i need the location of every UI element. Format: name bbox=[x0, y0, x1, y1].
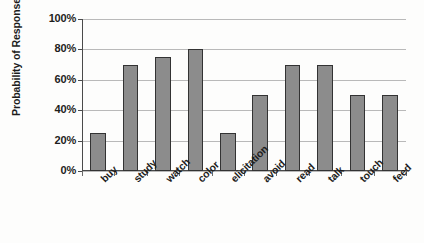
bar-slot bbox=[147, 19, 179, 171]
y-tick-label: 80% bbox=[32, 42, 76, 54]
bar-chart: Probability of Response 100%80%60%40%20%… bbox=[0, 0, 424, 243]
bar-slot bbox=[374, 19, 406, 171]
bar[interactable] bbox=[285, 65, 301, 171]
bar-slot bbox=[179, 19, 211, 171]
bar-slot bbox=[212, 19, 244, 171]
bar[interactable] bbox=[350, 95, 366, 171]
bar-slot bbox=[114, 19, 146, 171]
bar[interactable] bbox=[90, 133, 106, 171]
bar[interactable] bbox=[155, 57, 171, 171]
y-axis-title: Probability of Response bbox=[10, 0, 26, 137]
bar-slot bbox=[309, 19, 341, 171]
x-axis-category-labels: buystudywatchcolorelicitationavoidreadta… bbox=[82, 176, 406, 240]
y-tick-label: 100% bbox=[32, 12, 76, 24]
y-tick-label: 60% bbox=[32, 73, 76, 85]
y-tick-label: 0% bbox=[32, 164, 76, 176]
bar[interactable] bbox=[317, 65, 333, 171]
bar-slot bbox=[82, 19, 114, 171]
y-tick-label: 20% bbox=[32, 134, 76, 146]
bar-slot bbox=[341, 19, 373, 171]
y-tick-label: 40% bbox=[32, 103, 76, 115]
y-axis-tick-labels: 100%80%60%40%20%0% bbox=[30, 0, 76, 243]
bar-slot bbox=[276, 19, 308, 171]
plot-area bbox=[82, 19, 406, 171]
bar[interactable] bbox=[188, 49, 204, 171]
bar[interactable] bbox=[220, 133, 236, 171]
bar[interactable] bbox=[382, 95, 398, 171]
bar[interactable] bbox=[123, 65, 139, 171]
